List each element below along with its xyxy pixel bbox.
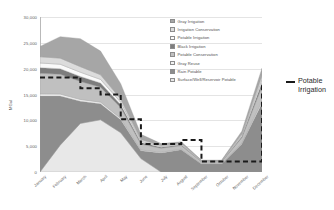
y-axis-tick-label: 10,000 bbox=[24, 118, 37, 123]
callout-label: Potable Irrigation bbox=[298, 77, 326, 94]
y-axis-title: MGal bbox=[8, 100, 13, 111]
legend-item-label: Black Irrigation bbox=[178, 44, 206, 49]
x-axis-tick-label: January bbox=[33, 174, 47, 188]
x-axis-tick-label: April bbox=[98, 174, 108, 183]
legend-swatch-icon bbox=[170, 61, 175, 66]
legend-swatch-icon bbox=[170, 36, 175, 41]
stacked-area-chart: 05,00010,00015,00020,00025,00030,000 MGa… bbox=[0, 0, 334, 210]
legend-item[interactable]: Irrigation Conservation bbox=[170, 25, 262, 33]
chart-legend: Gray IrrigationIrrigation ConservationPo… bbox=[170, 17, 262, 84]
legend-item[interactable]: Surface/Well/Reservoir Potable bbox=[170, 76, 262, 84]
legend-swatch-icon bbox=[170, 27, 175, 32]
y-axis-tick-label: 25,000 bbox=[24, 40, 37, 45]
x-axis-tick-label: October bbox=[215, 174, 229, 188]
legend-item-label: Gray Reuse bbox=[178, 61, 200, 66]
legend-swatch-icon bbox=[170, 44, 175, 49]
legend-item[interactable]: Rain Potable bbox=[170, 67, 262, 75]
dashed-line-icon bbox=[286, 81, 295, 83]
legend-item-label: Rain Potable bbox=[178, 69, 202, 74]
legend-item[interactable]: Gray Irrigation bbox=[170, 17, 262, 25]
legend-item-label: Potable Conservation bbox=[178, 52, 218, 57]
y-axis-tick-labels: 05,00010,00015,00020,00025,00030,000 bbox=[0, 17, 37, 172]
legend-item-label: Gray Irrigation bbox=[178, 19, 205, 24]
x-axis-tick-label: July bbox=[160, 174, 169, 183]
legend-item[interactable]: Black Irrigation bbox=[170, 42, 262, 50]
x-axis-tick-label: September bbox=[190, 174, 209, 191]
x-axis-tick-label: December bbox=[252, 174, 270, 191]
y-axis-tick-label: 20,000 bbox=[24, 66, 37, 71]
y-axis-tick-label: 15,000 bbox=[24, 92, 37, 97]
legend-item[interactable]: Potable Conservation bbox=[170, 51, 262, 59]
legend-item-label: Surface/Well/Reservoir Potable bbox=[178, 77, 236, 82]
potable-irrigation-callout: Potable Irrigation bbox=[286, 77, 326, 94]
legend-item-label: Potable Irrigation bbox=[178, 35, 210, 40]
legend-swatch-icon bbox=[170, 78, 175, 83]
legend-item-label: Irrigation Conservation bbox=[178, 27, 220, 32]
legend-swatch-icon bbox=[170, 19, 175, 24]
y-axis-tick-label: 0 bbox=[35, 170, 37, 175]
y-axis-tick-label: 5,000 bbox=[26, 144, 37, 149]
x-axis-tick-labels: JanuaryFebruaryMarchAprilMayJuneJulyAugu… bbox=[40, 174, 262, 208]
x-axis-tick-label: May bbox=[119, 174, 128, 183]
legend-swatch-icon bbox=[170, 52, 175, 57]
x-axis-tick-label: November bbox=[231, 174, 249, 191]
y-axis-tick-label: 30,000 bbox=[24, 15, 37, 20]
x-axis-tick-label: August bbox=[176, 174, 189, 186]
legend-swatch-icon bbox=[170, 69, 175, 74]
legend-item[interactable]: Gray Reuse bbox=[170, 59, 262, 67]
legend-item[interactable]: Potable Irrigation bbox=[170, 34, 262, 42]
x-axis-tick-label: February bbox=[52, 174, 68, 189]
x-axis-tick-label: March bbox=[76, 174, 88, 186]
x-axis-tick-label: June bbox=[138, 174, 148, 184]
